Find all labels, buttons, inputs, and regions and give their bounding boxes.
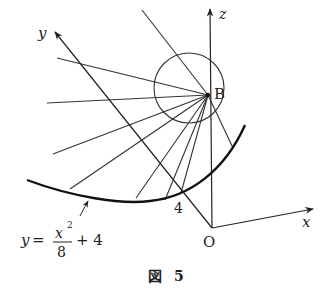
curve-pointer-arrow [80,201,88,216]
caption-prefix: 図 [148,268,162,284]
equation-denominator: 8 [57,244,66,260]
diagram: y z x O B 4 y = x 2 8 + 4 図 5 [0,0,329,288]
curve-equation: y = x 2 8 + 4 [20,220,103,260]
parabola-curve [27,125,245,202]
y-axis-label: y [37,24,47,42]
y-axis [55,32,212,228]
equation-lhs: y [20,231,30,249]
caption-number: 5 [174,268,184,284]
equation-tail: + 4 [76,231,103,249]
x-axis [212,209,313,228]
point-b-label: B [214,85,225,103]
axes [55,9,313,228]
rays-from-b [47,10,233,200]
z-axis-label: z [218,6,227,22]
x-axis-label: x [302,213,311,231]
origin-label: O [203,233,215,251]
z-axis [210,9,212,228]
tick-4-label: 4 [174,200,183,216]
point-b [206,93,210,97]
equation-exponent: 2 [67,220,73,230]
equation-equals: = [32,231,45,249]
equation-numerator: x [55,225,63,241]
